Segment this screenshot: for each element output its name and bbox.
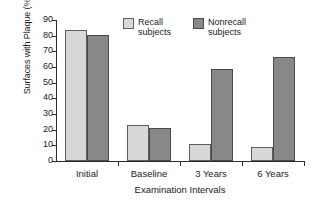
y-tick-label: 10 xyxy=(43,139,53,150)
bar xyxy=(211,69,233,161)
x-tick-label: 3 Years xyxy=(180,168,242,179)
x-tick-mark xyxy=(180,161,181,166)
y-tick-label: 70 xyxy=(43,45,53,56)
y-axis-title: Surfaces with Plaque (%) xyxy=(22,0,32,120)
y-tick-label: 30 xyxy=(43,108,53,119)
x-axis-line xyxy=(52,161,304,162)
y-tick-label: 50 xyxy=(43,77,53,88)
bar xyxy=(273,57,295,161)
y-tick-label: 90 xyxy=(43,14,53,25)
y-tick-label: 0 xyxy=(48,155,53,166)
bar xyxy=(251,147,273,161)
x-tick-label: 6 Years xyxy=(242,168,304,179)
bar xyxy=(149,128,171,161)
bar xyxy=(65,30,87,161)
x-tick-mark xyxy=(304,161,305,166)
plot-area: 0102030405060708090 InitialBaseline3 Yea… xyxy=(56,20,304,161)
y-tick-label: 40 xyxy=(43,92,53,103)
x-axis-title: Examination Intervals xyxy=(56,184,304,195)
y-axis-line xyxy=(56,20,57,162)
y-tick-label: 80 xyxy=(43,30,53,41)
x-tick-label: Initial xyxy=(56,168,118,179)
x-tick-mark xyxy=(242,161,243,166)
bar-chart: Surfaces with Plaque (%) Recall subjects… xyxy=(0,0,321,209)
y-tick-label: 20 xyxy=(43,124,53,135)
bar xyxy=(189,144,211,161)
x-tick-mark xyxy=(118,161,119,166)
y-tick-label: 60 xyxy=(43,61,53,72)
x-tick-label: Baseline xyxy=(118,168,180,179)
bar xyxy=(127,125,149,161)
bar xyxy=(87,35,109,161)
